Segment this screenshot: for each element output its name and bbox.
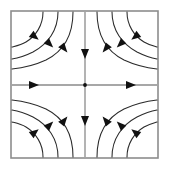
phase-portrait-canvas	[0, 0, 169, 169]
phase-portrait-figure	[0, 0, 169, 169]
saddle-point-marker	[83, 83, 87, 87]
